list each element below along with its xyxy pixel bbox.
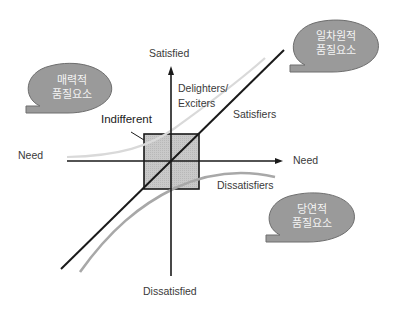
satisfiers-label: Satisfiers [233,108,276,121]
y-axis-top-label: Satisfied [149,47,189,60]
kano-diagram: Satisfied Dissatisfied Need Need Delight… [0,0,397,316]
indifferent-leader [131,132,144,140]
must-be-bubble-text: 당연적 품질요소 [276,203,348,231]
x-axis-arrowhead [275,158,283,164]
delighters-label-line1: Delighters/ [178,82,228,95]
dissatisfiers-label: Dissatisfiers [217,179,274,192]
delighters-label-line2: Exciters [178,97,215,110]
x-axis-left-label: Need [18,149,43,162]
y-axis-bottom-label: Dissatisfied [143,285,197,298]
must-be-bubble-line2: 품질요소 [276,217,348,231]
indifferent-label: Indifferent [101,113,152,126]
y-axis-arrowhead [168,66,174,75]
x-axis-right-label: Need [293,154,318,167]
one-dimensional-bubble-text: 일차원적 품질요소 [300,30,372,58]
attractive-bubble-line1: 매력적 [38,74,106,88]
attractive-bubble-line2: 품질요소 [38,88,106,102]
one-dimensional-bubble-line2: 품질요소 [300,44,372,58]
must-be-bubble-line1: 당연적 [276,203,348,217]
attractive-bubble-text: 매력적 품질요소 [38,74,106,102]
one-dimensional-bubble-line1: 일차원적 [300,30,372,44]
